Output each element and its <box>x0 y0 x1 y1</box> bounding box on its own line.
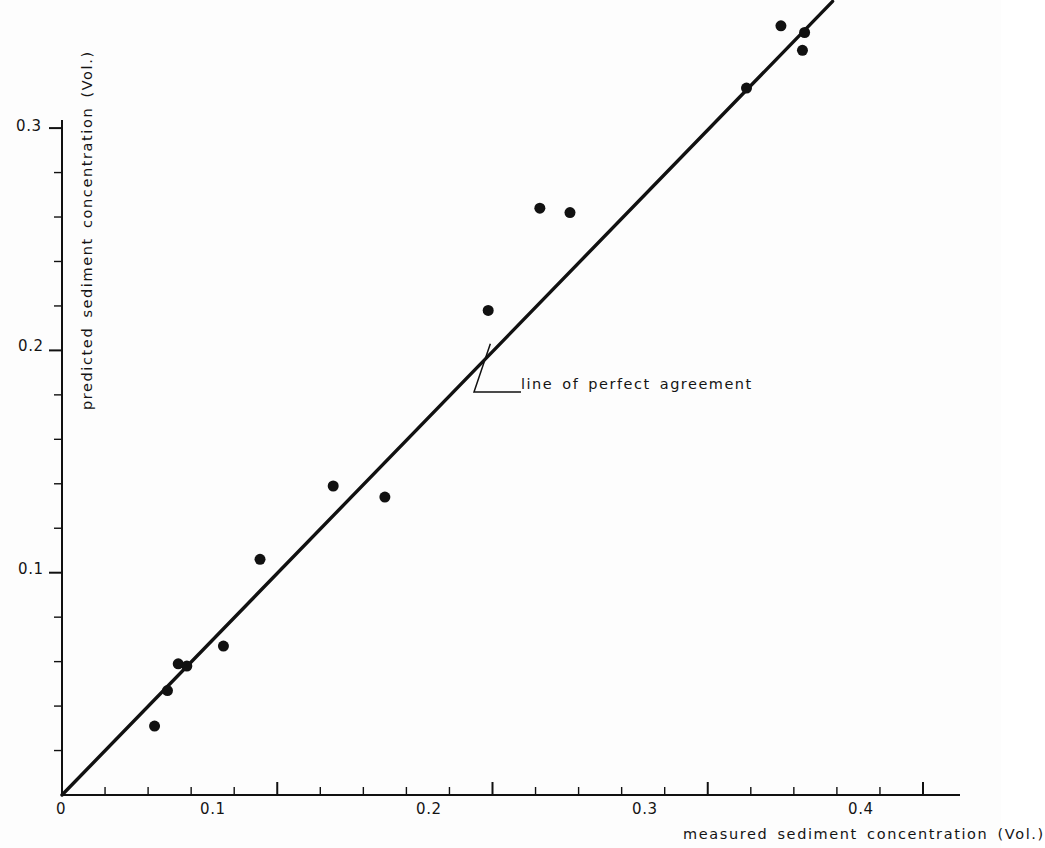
y-tick-label-2: 0.3 <box>16 117 42 135</box>
x-axis-ticks <box>62 782 923 795</box>
data-point <box>534 203 545 214</box>
y-tick-label-0: 0.1 <box>18 560 44 578</box>
data-point <box>797 45 808 56</box>
axes-group <box>49 120 960 795</box>
data-point <box>741 83 752 94</box>
line-of-perfect-agreement <box>62 1 833 795</box>
reference-line-annotation-label: line of perfect agreement <box>521 376 753 392</box>
x-tick-label-3: 0.3 <box>632 800 658 818</box>
data-point <box>328 481 339 492</box>
annotation-leader <box>474 344 521 392</box>
x-tick-label-0: 0 <box>56 800 66 818</box>
y-axis-ticks <box>49 128 62 750</box>
data-point <box>181 661 192 672</box>
x-tick-label-1: 0.1 <box>200 800 226 818</box>
x-axis-title: measured sediment concentration (Vol.) <box>683 826 1045 842</box>
data-point <box>775 20 786 31</box>
data-point <box>799 27 810 38</box>
data-point <box>149 721 160 732</box>
data-point <box>218 641 229 652</box>
y-tick-label-1: 0.2 <box>18 337 44 355</box>
data-point <box>379 492 390 503</box>
data-point <box>483 305 494 316</box>
y-axis-title: predicted sediment concentration (Vol.) <box>79 50 95 410</box>
x-tick-label-4: 0.4 <box>848 800 874 818</box>
data-point <box>564 207 575 218</box>
data-point <box>162 685 173 696</box>
annotation-leader-line <box>474 344 521 392</box>
x-tick-label-2: 0.2 <box>416 800 442 818</box>
reference-line <box>62 1 833 795</box>
data-point <box>255 554 266 565</box>
